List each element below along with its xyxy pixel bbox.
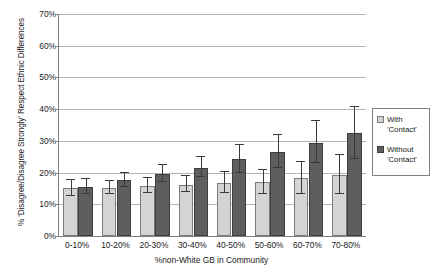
error-bar-cap — [196, 156, 205, 157]
error-bar-cap — [120, 186, 129, 187]
error-bar-cap — [105, 193, 114, 194]
error-bar — [201, 157, 202, 177]
bar-group — [97, 14, 135, 236]
error-bar-cap — [81, 193, 90, 194]
error-bar — [186, 176, 187, 192]
x-axis-tick-label: 40-50% — [212, 240, 250, 250]
error-bar — [354, 107, 355, 158]
error-bar-cap — [235, 172, 244, 173]
error-bar — [239, 145, 240, 172]
y-axis-tickmark — [55, 236, 59, 237]
x-axis-tick-label: 20-30% — [135, 240, 173, 250]
y-axis-tick-label: 50% — [22, 73, 56, 81]
plot-area — [58, 14, 366, 236]
error-bar-cap — [158, 181, 167, 182]
bar-group — [136, 14, 174, 236]
bar-group — [251, 14, 289, 236]
x-axis-tick-label: 0-10% — [58, 240, 96, 250]
y-axis-tick-labels: 0%10%20%30%40%50%60%70% — [16, 0, 56, 279]
error-bar-cap — [273, 134, 282, 135]
error-bar-cap — [158, 164, 167, 165]
error-bar-cap — [311, 120, 320, 121]
bar — [194, 168, 209, 237]
y-axis-tick-label: 70% — [22, 10, 56, 18]
error-bar-cap — [143, 177, 152, 178]
legend-swatch-icon — [377, 116, 384, 123]
bar — [78, 187, 93, 236]
error-bar — [278, 135, 279, 167]
error-bar — [339, 155, 340, 193]
y-axis-tick-label: 0% — [22, 232, 56, 240]
legend-item-label: Without 'Contact' — [387, 145, 417, 165]
error-bar-cap — [143, 192, 152, 193]
error-bar-cap — [311, 162, 320, 163]
bar-group — [59, 14, 97, 236]
x-axis-tick-label: 30-40% — [173, 240, 211, 250]
error-bar — [301, 162, 302, 193]
error-bar-cap — [350, 158, 359, 159]
y-axis-tick-label: 40% — [22, 105, 56, 113]
error-bar-cap — [120, 172, 129, 173]
error-bar-cap — [220, 171, 229, 172]
y-axis-tick-label: 30% — [22, 137, 56, 145]
bar-group — [328, 14, 366, 236]
error-bar-cap — [81, 178, 90, 179]
error-bar — [162, 165, 163, 182]
x-axis-tick-label: 70-80% — [327, 240, 365, 250]
error-bar-cap — [181, 175, 190, 176]
error-bar-cap — [296, 161, 305, 162]
error-bar — [124, 173, 125, 187]
error-bar — [147, 178, 148, 193]
gridline — [59, 236, 366, 237]
x-axis-title: %non-White GB in Community — [58, 255, 365, 265]
error-bar — [86, 179, 87, 194]
bar — [179, 185, 194, 236]
bar — [102, 188, 117, 236]
error-bar — [263, 170, 264, 194]
error-bar-cap — [66, 179, 75, 180]
error-bar-cap — [181, 191, 190, 192]
y-axis-tick-label: 10% — [22, 200, 56, 208]
error-bar-cap — [258, 193, 267, 194]
error-bar-cap — [66, 195, 75, 196]
bar-group — [174, 14, 212, 236]
error-bar-cap — [196, 176, 205, 177]
error-bar — [109, 181, 110, 194]
error-bar — [316, 121, 317, 163]
bar-chart: % 'Disagree/Disagree Strongly' Respect E… — [0, 0, 439, 279]
bar — [155, 174, 170, 236]
legend-swatch-icon — [377, 146, 384, 153]
error-bar — [224, 172, 225, 193]
error-bar-cap — [335, 154, 344, 155]
error-bar-cap — [335, 193, 344, 194]
error-bar-cap — [220, 192, 229, 193]
error-bar-cap — [105, 180, 114, 181]
legend: With 'Contact'Without 'Contact' — [372, 108, 430, 176]
bar — [117, 180, 132, 236]
legend-item-label: With 'Contact' — [387, 115, 417, 135]
error-bar-cap — [235, 144, 244, 145]
x-axis-tick-label: 10-20% — [96, 240, 134, 250]
y-axis-tick-label: 20% — [22, 169, 56, 177]
error-bar-cap — [296, 193, 305, 194]
error-bar-cap — [350, 106, 359, 107]
error-bar — [71, 180, 72, 196]
x-axis-tick-labels: 0-10%10-20%20-30%30-40%40-50%50-60%60-70… — [58, 240, 365, 254]
x-axis-tick-label: 50-60% — [250, 240, 288, 250]
bar-group — [213, 14, 251, 236]
x-axis-tick-label: 60-70% — [288, 240, 326, 250]
y-axis-tick-label: 60% — [22, 42, 56, 50]
bar-group — [289, 14, 327, 236]
bars-layer — [59, 14, 366, 236]
error-bar-cap — [258, 169, 267, 170]
error-bar-cap — [273, 167, 282, 168]
bar — [140, 186, 155, 236]
